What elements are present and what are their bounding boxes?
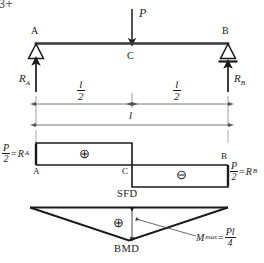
- reaction-label-a: RA: [19, 73, 30, 87]
- diagram-vector-layer: [0, 0, 264, 263]
- bmd-caption: BMD: [114, 244, 139, 255]
- bmd-positive-sign: ⊕: [113, 216, 124, 229]
- dim-label-half-left: l 2: [77, 79, 85, 102]
- sfd-right-value: P 2 = RB: [230, 161, 257, 182]
- sfd-left-reaction: R: [18, 149, 24, 159]
- beam-diagram-figure: 3+: [0, 0, 264, 263]
- sfd-right-reaction: R: [246, 167, 252, 177]
- sfd-negative-sign: ⊖: [176, 168, 187, 181]
- sfd-label-c: C: [122, 167, 128, 176]
- beam-label-b: B: [222, 26, 229, 36]
- sfd-label-a: A: [33, 167, 40, 176]
- bmd-mmax-equals: =: [218, 233, 224, 243]
- roller-support-b: [221, 44, 236, 59]
- reaction-b-subscript: B: [241, 79, 245, 87]
- sfd-left-reaction-sub: A: [25, 150, 29, 157]
- sfd-positive-sign: ⊕: [79, 147, 90, 160]
- sfd-left-denominator: 2: [2, 154, 10, 164]
- sfd-right-reaction-sub: B: [253, 168, 257, 175]
- reaction-a-symbol: R: [19, 72, 26, 84]
- pin-support-a: [29, 44, 44, 59]
- reaction-b-symbol: R: [234, 72, 241, 84]
- beam-label-c: C: [127, 51, 134, 61]
- bmd-mmax-denominator: 4: [225, 238, 236, 248]
- sfd-label-b: B: [221, 152, 227, 161]
- shear-force-diagram: [36, 130, 228, 187]
- bmd-mmax-label: Mmax = Pl 4: [196, 227, 236, 248]
- sfd-caption: SFD: [117, 189, 137, 200]
- reaction-label-b: RB: [234, 73, 245, 87]
- sfd-left-value: P 2 = RA: [2, 143, 29, 164]
- sfd-left-equals: =: [11, 149, 17, 159]
- dim-label-half-right: l 2: [173, 79, 181, 102]
- sfd-right-equals: =: [239, 167, 245, 177]
- bmd-mmax-symbol: M: [196, 233, 204, 243]
- sfd-right-denominator: 2: [230, 172, 238, 182]
- bmd-mmax-subscript: max: [205, 234, 217, 241]
- reaction-a-subscript: A: [26, 79, 30, 87]
- load-label-p: P: [139, 7, 146, 19]
- half-left-denominator: 2: [77, 91, 85, 102]
- dim-label-full-span: l: [129, 110, 132, 121]
- half-right-denominator: 2: [173, 91, 181, 102]
- beam-label-a: A: [31, 26, 38, 36]
